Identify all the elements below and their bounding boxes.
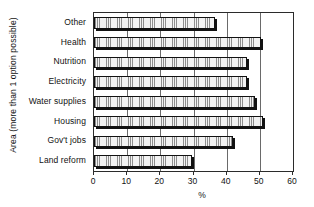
bar	[94, 136, 233, 147]
category-label-column: OtherHealthNutritionElectricityWater sup…	[18, 12, 89, 170]
x-tick-50	[259, 171, 260, 175]
bar	[94, 37, 261, 48]
x-tick-label: 20	[155, 176, 164, 186]
bar-body	[94, 96, 255, 107]
x-tick-label: 10	[121, 176, 130, 186]
bar-body	[94, 116, 263, 127]
x-axis-title: %	[0, 190, 314, 200]
category-label: Health	[61, 37, 86, 47]
x-tick-30	[193, 171, 194, 175]
bar-body	[94, 136, 233, 147]
bar	[94, 96, 255, 107]
y-axis-title: Area (more than 1 option possible)	[8, 0, 18, 170]
x-tick-label: 40	[221, 176, 230, 186]
category-label: Electricity	[49, 76, 86, 86]
bar	[94, 57, 247, 68]
category-label: Other	[64, 17, 86, 27]
category-label: Water supplies	[29, 96, 86, 106]
category-label: Nutrition	[53, 56, 86, 66]
x-tick-60	[292, 171, 293, 175]
plot-inner	[94, 13, 293, 171]
category-label: Gov't jobs	[47, 135, 86, 145]
horizontal-bar-chart: Area (more than 1 option possible) Other…	[0, 0, 314, 207]
x-tick-0	[93, 171, 94, 175]
x-tick-10	[126, 171, 127, 175]
bar	[94, 17, 215, 28]
bar-body	[94, 76, 247, 87]
bar-body	[94, 17, 215, 28]
bar-body	[94, 155, 192, 166]
x-tick-40	[226, 171, 227, 175]
x-tick-label: 0	[91, 176, 96, 186]
x-tick-label: 50	[254, 176, 263, 186]
x-tick-20	[159, 171, 160, 175]
bar	[94, 76, 247, 87]
bar	[94, 155, 192, 166]
x-axis-title-text: %	[198, 190, 206, 200]
bar	[94, 116, 263, 127]
bar-body	[94, 37, 261, 48]
bar-body	[94, 57, 247, 68]
category-label: Housing	[54, 116, 86, 126]
x-tick-label: 60	[287, 176, 296, 186]
x-tick-label: 30	[188, 176, 197, 186]
category-label: Land reform	[39, 155, 86, 165]
plot-area	[93, 12, 294, 172]
